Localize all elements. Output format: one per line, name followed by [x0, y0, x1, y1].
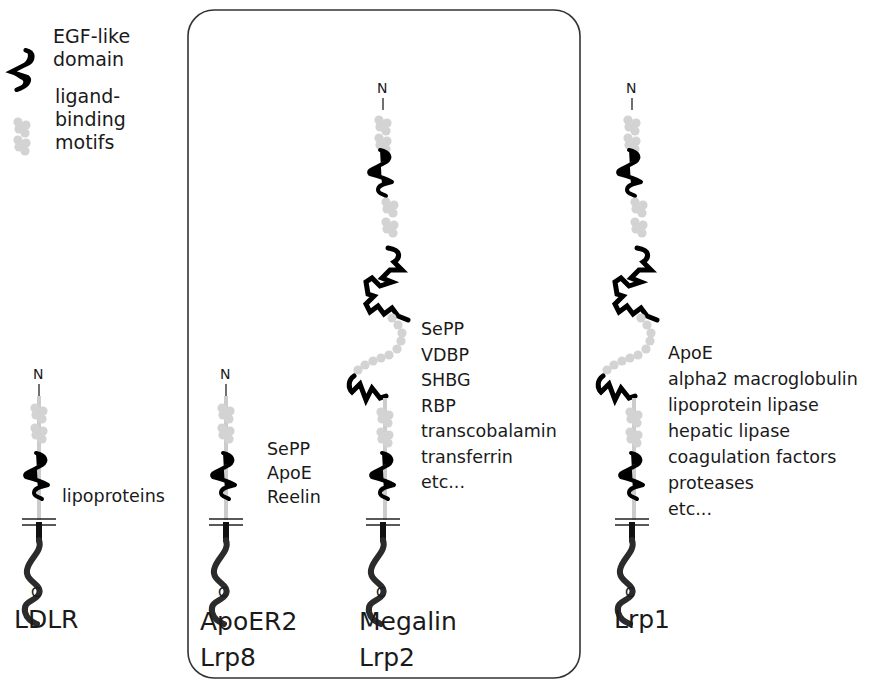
ligand-item: VDBP	[421, 343, 557, 369]
c-terminus-label: C	[218, 584, 228, 600]
ligand-item: SHBG	[421, 368, 557, 394]
ligand-item: SePP	[267, 437, 321, 461]
legend-egf-line: domain	[53, 48, 130, 71]
ligand-item: proteases	[668, 470, 858, 496]
receptor-name: Lrp1	[614, 604, 670, 636]
ligand-item: ApoE	[668, 340, 858, 366]
legend-egf-line: EGF-like	[53, 25, 130, 48]
n-terminus-label: N	[33, 366, 43, 382]
ligand-item: ApoE	[267, 461, 321, 485]
legend-ligand-line: ligand-	[55, 85, 126, 108]
lrp1-ligand-list: ApoE alpha2 macroglobulin lipoprotein li…	[668, 340, 858, 522]
legend-ligand-line: binding	[55, 108, 126, 131]
ligand-item: transcobalamin	[421, 419, 557, 445]
ligand-item: etc...	[668, 496, 858, 522]
megalin-ligand-list: SePP VDBP SHBG RBP transcobalamin transf…	[421, 317, 557, 496]
ligand-item: coagulation factors	[668, 444, 858, 470]
c-terminus-label: C	[625, 584, 635, 600]
receptor-name: LDLR	[14, 604, 78, 636]
receptor-name-ldlr: LDLR	[14, 604, 78, 636]
c-terminus-label: C	[376, 584, 386, 600]
ligand-binding-motifs-icon	[13, 117, 30, 155]
n-terminus-label: N	[626, 80, 636, 96]
ldlr-ligand-list: lipoproteins	[62, 484, 165, 508]
receptor-name: Megalin	[359, 604, 457, 640]
receptor-name: ApoER2	[200, 604, 297, 640]
ligand-item: SePP	[421, 317, 557, 343]
n-terminus-label: N	[377, 80, 387, 96]
ligand-item: RBP	[421, 394, 557, 420]
receptor-name-megalin: Megalin Lrp2	[359, 604, 457, 676]
n-terminus-label: N	[220, 366, 230, 382]
ligand-item: lipoprotein lipase	[668, 392, 858, 418]
receptor-name-lrp1: Lrp1	[614, 604, 670, 636]
legend-ligand-line: motifs	[55, 131, 126, 154]
ligand-item: etc...	[421, 470, 557, 496]
ligand-item: transferrin	[421, 445, 557, 471]
ligand-item: lipoproteins	[62, 484, 165, 508]
receptor-alias: Lrp8	[200, 640, 297, 676]
apoer2-ligand-list: SePP ApoE Reelin	[267, 437, 321, 509]
legend-ligand-label: ligand- binding motifs	[55, 85, 126, 154]
receptor-alias: Lrp2	[359, 640, 457, 676]
c-terminus-label: C	[31, 584, 41, 600]
ligand-item: hepatic lipase	[668, 418, 858, 444]
ligand-item: alpha2 macroglobulin	[668, 366, 858, 392]
egf-like-domain-icon	[9, 50, 32, 90]
lrp1-structure	[598, 98, 657, 624]
legend-egf-label: EGF-like domain	[53, 25, 130, 71]
ligand-item: Reelin	[267, 485, 321, 509]
receptor-name-apoer2: ApoER2 Lrp8	[200, 604, 297, 676]
megalin-structure	[349, 98, 408, 624]
